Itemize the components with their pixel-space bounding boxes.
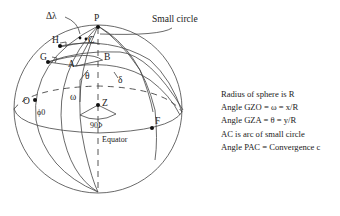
label-90: 90Þ [90,121,103,130]
delta-lambda-leader [65,17,80,34]
label-P: P [94,13,99,23]
label-theta: θ [85,71,90,81]
point-F [150,126,154,130]
label-Z: Z [102,98,108,108]
label-phi0: ϕ0 [37,108,45,117]
label-omega: ω [70,92,76,102]
ray-Z-O [80,105,98,115]
label-delta-lambda: Δλ [46,11,57,21]
legend-line-pac: Angle PAC = Convergence c [221,141,320,154]
small-circle-arc [75,65,180,115]
small-circle-leader [100,28,172,34]
point-dl-2 [85,38,88,41]
legend: Radius of sphere is R Angle GZO = ω = x/… [221,88,320,154]
point-O [33,98,37,102]
label-delta: δ [118,75,123,85]
legend-line-ac: AC is arc of small circle [221,128,320,141]
label-C: C [88,35,94,45]
point-P [96,25,100,29]
legend-line-radius: Radius of sphere is R [221,88,320,101]
label-H: H [52,35,59,45]
label-O: O [23,96,30,106]
legend-line-gza: Angle GZA = θ = y/R [221,114,320,127]
legend-line-gzo: Angle GZO = ω = x/R [221,101,320,114]
point-Z [96,103,100,107]
label-B: B [104,52,110,62]
label-A: A [68,59,75,69]
label-small-circle: Small circle [152,14,198,24]
label-equator: Equator [102,135,128,144]
label-F: F [155,116,160,126]
meridian-inner [80,26,98,192]
point-dl-1 [79,37,82,40]
label-G: G [40,52,47,62]
